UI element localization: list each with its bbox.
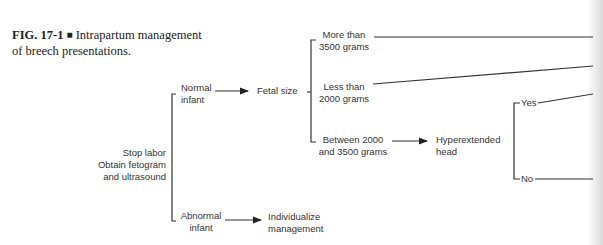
root-line2: Obtain fetogram [96,159,166,171]
abnormal-line2: infant [178,222,224,234]
normal-infant-node: Normal infant [181,82,212,106]
yes-node: Yes [521,97,537,109]
no-label: No [521,173,533,185]
connector-lines [0,0,603,245]
abnormal-infant-node: Abnormal infant [178,210,224,234]
hyperextended-line2: head [436,146,500,158]
root-bracket [172,94,176,221]
root-line3: and ultrasound [96,171,166,183]
abnormal-line1: Abnormal [178,210,224,222]
fetal-size-node: Fetal size [257,85,298,97]
line-yes [538,94,593,103]
less-than-line2: 2000 grams [318,93,370,105]
individualize-line1: Individualize [268,211,323,223]
no-node: No [521,173,533,185]
less-than-2000-node: Less than 2000 grams [318,81,370,105]
hyperextended-node: Hyperextended head [436,134,500,158]
more-than-line2: 3500 grams [318,41,370,53]
yes-no-bracket [514,103,520,179]
hyperextended-line1: Hyperextended [436,134,500,146]
individualize-line2: management [268,223,323,235]
normal-line1: Normal [181,82,212,94]
yes-label: Yes [521,97,537,109]
between-line1: Between 2000 [318,134,388,146]
fetal-size-bracket [311,40,316,142]
individualize-node: Individualize management [268,211,323,235]
root-node: Stop labor Obtain fetogram and ultrasoun… [96,147,166,183]
between-line2: and 3500 grams [318,146,388,158]
normal-line2: infant [181,94,212,106]
root-line1: Stop labor [96,147,166,159]
line-less-than [373,66,593,84]
more-than-line1: More than [318,29,370,41]
fetal-size-label: Fetal size [257,85,298,97]
less-than-line1: Less than [318,81,370,93]
more-than-3500-node: More than 3500 grams [318,29,370,53]
between-node: Between 2000 and 3500 grams [318,134,388,158]
